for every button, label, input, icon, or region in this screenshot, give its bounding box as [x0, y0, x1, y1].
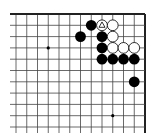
white-stone	[107, 31, 118, 42]
black-stone	[129, 54, 140, 65]
star-point	[47, 46, 50, 49]
black-stone	[129, 76, 140, 87]
white-stone	[107, 20, 118, 31]
stones	[75, 20, 140, 87]
grid-lines	[10, 14, 145, 133]
black-stone	[97, 54, 108, 65]
white-stone	[118, 43, 129, 54]
black-stone	[107, 54, 118, 65]
black-stone	[86, 20, 97, 31]
black-stone	[97, 43, 108, 54]
star-point	[111, 114, 114, 117]
black-stone	[118, 54, 129, 65]
black-stone	[97, 31, 108, 42]
go-board	[0, 0, 156, 139]
black-stone	[75, 31, 86, 42]
white-stone	[129, 43, 140, 54]
white-stone	[107, 43, 118, 54]
